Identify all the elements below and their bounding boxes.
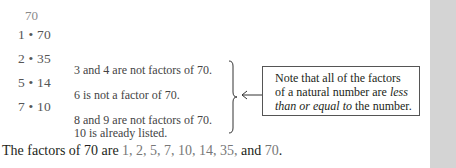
callout-emphasis: than or equal to [275, 99, 352, 113]
right-brace-icon [228, 60, 238, 134]
callout-text: the number. [352, 99, 412, 113]
factor-pair: 7 • 10 [18, 99, 51, 115]
note-callout-box: Note that all of the factors of a natura… [262, 66, 420, 116]
callout-line: of a natural number are less [275, 85, 419, 99]
annotation-line: 3 and 4 are not factors of 70. [74, 63, 212, 78]
summary-text: The factors of 70 are [2, 143, 122, 158]
annotation-line: 10 is already listed. [74, 126, 167, 141]
callout-line: Note that all of the factors [275, 71, 419, 85]
factors-list: 70 [265, 143, 279, 158]
factors-list: 1, 2, 5, 7, 10, 14, 35, [122, 143, 238, 158]
callout-line: than or equal to the number. [275, 99, 419, 113]
page-margin-sidebar [430, 0, 456, 168]
summary-text: and [238, 143, 265, 158]
number-label: 70 [25, 8, 38, 24]
factor-pair: 2 • 35 [18, 51, 51, 67]
factor-pair: 1 • 70 [18, 27, 51, 43]
summary-sentence: The factors of 70 are 1, 2, 5, 7, 10, 14… [2, 143, 282, 159]
factor-pair: 5 • 14 [18, 75, 51, 91]
callout-text: of a natural number are [275, 85, 390, 99]
annotation-line: 6 is not a factor of 70. [74, 88, 180, 103]
callout-emphasis: less [390, 85, 408, 99]
left-arrow-icon [240, 90, 262, 100]
summary-text: . [279, 143, 283, 158]
